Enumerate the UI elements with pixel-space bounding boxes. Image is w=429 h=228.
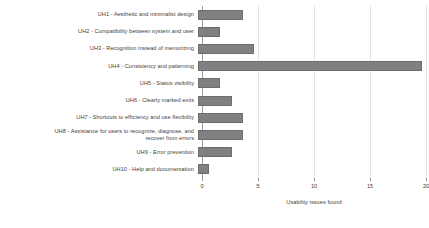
x-tick-mark	[370, 178, 371, 181]
bar[interactable]	[198, 96, 232, 106]
bar[interactable]	[198, 61, 422, 71]
category-label: UH7 - Shortcuts to efficiency and use fl…	[0, 114, 198, 121]
x-tick-mark	[314, 178, 315, 181]
category-label: UH10 - Help and documentation	[0, 166, 198, 173]
bar[interactable]	[198, 27, 220, 37]
x-tick-label: 0	[200, 182, 203, 190]
bar[interactable]	[198, 44, 254, 54]
category-label: UH4 - Consistency and patterning	[0, 63, 198, 70]
bar-row: UH7 - Shortcuts to efficiency and use fl…	[0, 109, 426, 126]
bar-row: UH8 - Assistance for users to recognize,…	[0, 126, 426, 143]
gridline-20	[426, 6, 427, 178]
bar-row: UH6 - Clearly marked exits	[0, 92, 426, 109]
bar-track	[198, 23, 422, 40]
category-label: UH5 - Status visibility	[0, 80, 198, 87]
bar[interactable]	[198, 164, 209, 174]
category-label: UH9 - Error prevention	[0, 149, 198, 156]
bar-row: UH10 - Help and documentation	[0, 161, 426, 178]
bar-row: UH1 - Aesthetic and minimalist design	[0, 6, 426, 23]
category-label: UH1 - Aesthetic and minimalist design	[0, 11, 198, 18]
bar[interactable]	[198, 130, 243, 140]
x-tick-label: 10	[311, 182, 317, 190]
x-tick-label: 5	[256, 182, 259, 190]
x-tick-mark	[258, 178, 259, 181]
bar-track	[198, 75, 422, 92]
category-label: UH3 - Recognition instead of memorizing	[0, 45, 198, 52]
bar-row: UH2 - Compatibility between system and u…	[0, 23, 426, 40]
bar-row: UH5 - Status visibility	[0, 75, 426, 92]
bar[interactable]	[198, 10, 243, 20]
bar-track	[198, 92, 422, 109]
x-axis-title: Usability issues found	[202, 198, 426, 206]
bar-track	[198, 161, 422, 178]
x-tick-mark	[426, 178, 427, 181]
bar-track	[198, 6, 422, 23]
x-tick-mark	[202, 178, 203, 181]
x-axis: 05101520	[202, 178, 426, 192]
bar-track	[198, 58, 422, 75]
bar-row: UH9 - Error prevention	[0, 144, 426, 161]
category-label: UH8 - Assistance for users to recognize,…	[0, 128, 198, 142]
bar-track	[198, 126, 422, 143]
x-tick-label: 15	[367, 182, 373, 190]
plot-area: UH1 - Aesthetic and minimalist designUH2…	[0, 6, 426, 178]
bar[interactable]	[198, 113, 243, 123]
bar-row: UH4 - Consistency and patterning	[0, 58, 426, 75]
bar-track	[198, 109, 422, 126]
category-label: UH2 - Compatibility between system and u…	[0, 28, 198, 35]
bar[interactable]	[198, 78, 220, 88]
bar-track	[198, 144, 422, 161]
bar-row: UH3 - Recognition instead of memorizing	[0, 40, 426, 57]
x-tick-label: 20	[423, 182, 429, 190]
bar-rows: UH1 - Aesthetic and minimalist designUH2…	[0, 6, 426, 178]
bar[interactable]	[198, 147, 232, 157]
bar-track	[198, 40, 422, 57]
category-label: UH6 - Clearly marked exits	[0, 97, 198, 104]
